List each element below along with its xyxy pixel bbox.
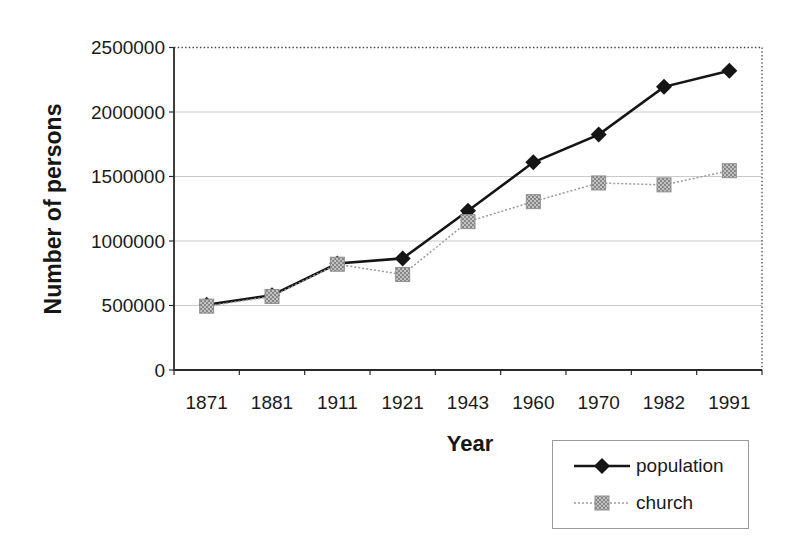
church-data-point — [657, 178, 671, 192]
population-data-point — [721, 63, 737, 79]
x-axis-tick-label: 1991 — [708, 392, 750, 413]
church-data-point — [200, 299, 214, 313]
population-legend-diamond-icon — [594, 458, 610, 474]
x-axis-tick-label: 1871 — [186, 392, 228, 413]
x-axis-tick-label: 1960 — [512, 392, 554, 413]
x-axis-tick-label: 1970 — [578, 392, 620, 413]
church-data-point — [265, 289, 279, 303]
x-axis-tick-label: 1921 — [382, 392, 424, 413]
legend-label-population: population — [636, 455, 724, 477]
y-axis-title: Number of persons — [40, 63, 66, 355]
y-axis-tick-label: 500000 — [102, 295, 165, 316]
church-data-point — [396, 268, 410, 282]
x-axis-title: Year — [400, 431, 540, 457]
legend: population church — [552, 440, 749, 529]
church-data-point — [592, 176, 606, 190]
legend-entry-church: church — [573, 492, 748, 514]
y-axis-tick-label: 1000000 — [91, 231, 165, 252]
y-axis-tick-label: 2500000 — [91, 37, 165, 58]
church-data-point — [722, 164, 736, 178]
y-axis-tick-label: 1500000 — [91, 166, 165, 187]
legend-label-church: church — [636, 492, 693, 514]
x-axis-tick-label: 1982 — [643, 392, 685, 413]
church-data-point — [330, 257, 344, 271]
church-legend-square-icon — [595, 496, 609, 510]
y-axis-tick-label: 2000000 — [91, 102, 165, 123]
legend-entry-population: population — [573, 455, 748, 477]
chart: 0500000100000015000002000000250000018711… — [0, 0, 810, 559]
church-series-line — [207, 171, 730, 306]
x-axis-tick-label: 1943 — [447, 392, 489, 413]
population-legend-swatch — [573, 456, 631, 476]
x-axis-tick-label: 1911 — [317, 392, 358, 413]
x-axis-tick-label: 1881 — [251, 392, 293, 413]
church-data-point — [461, 215, 475, 229]
church-legend-swatch — [573, 493, 631, 513]
y-axis-tick-label: 0 — [154, 360, 165, 381]
population-series-line — [207, 71, 730, 305]
church-data-point — [526, 195, 540, 209]
